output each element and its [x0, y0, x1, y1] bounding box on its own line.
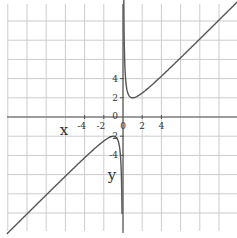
- tick-labels: -4-22442-2-400xy: [60, 74, 165, 184]
- x-origin-label: 0: [120, 121, 126, 131]
- y-tick-label: -4: [109, 150, 118, 160]
- x-tick-label: -4: [77, 121, 86, 131]
- function-plot: -4-22442-2-400xy: [0, 0, 237, 238]
- y-tick-label: 2: [112, 93, 118, 103]
- origin-label: 0: [112, 111, 118, 121]
- curve-left-branch: [7, 136, 122, 234]
- y-axis-label: y: [107, 166, 117, 184]
- x-tick-label: 2: [139, 121, 145, 131]
- x-tick-label: 4: [159, 121, 165, 131]
- y-tick-label: -2: [109, 131, 118, 141]
- y-tick-label: 4: [112, 74, 118, 84]
- x-axis-label: x: [60, 121, 69, 139]
- x-tick-label: -2: [96, 121, 105, 131]
